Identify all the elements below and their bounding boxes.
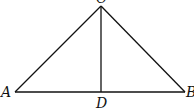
segment-bc	[101, 6, 185, 92]
label-c: C	[96, 0, 107, 6]
label-a: A	[0, 84, 11, 100]
label-b: B	[185, 84, 194, 100]
label-d: D	[95, 95, 107, 111]
triangle-diagram: A B C D	[0, 0, 194, 111]
segment-ac	[15, 6, 101, 92]
